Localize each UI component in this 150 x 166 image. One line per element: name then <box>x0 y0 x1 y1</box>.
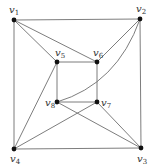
edge-v1-v5 <box>14 20 57 62</box>
edges-group <box>14 19 141 149</box>
vertex-v8 <box>55 100 60 105</box>
edge-v2-v6 <box>97 19 140 62</box>
edge-v2-v3 <box>140 19 141 148</box>
graph-diagram: v1v2v3v4v5v6v7v8 <box>0 0 150 166</box>
vertex-v6 <box>95 60 100 65</box>
vertex-label-v1: v1 <box>9 4 19 17</box>
edge-v3-v7 <box>97 102 141 148</box>
vertex-label-v6: v6 <box>93 47 104 60</box>
edge-v3-v8 <box>57 102 141 148</box>
vertex-v4 <box>12 147 17 152</box>
vertex-v1 <box>12 18 17 23</box>
vertex-v2 <box>138 17 143 22</box>
vertex-label-v4: v4 <box>10 153 21 166</box>
edge-v4-v7 <box>14 102 97 149</box>
vertex-v3 <box>139 146 144 151</box>
edge-v3-v4 <box>14 148 141 149</box>
vertex-v7 <box>95 100 100 105</box>
vertex-v5 <box>55 60 60 65</box>
vertex-label-v8: v8 <box>45 97 55 110</box>
vertex-label-v5: v5 <box>55 47 65 60</box>
edge-v1-v2 <box>14 19 140 20</box>
vertex-label-v3: v3 <box>137 153 147 166</box>
vertex-label-v2: v2 <box>136 3 146 16</box>
